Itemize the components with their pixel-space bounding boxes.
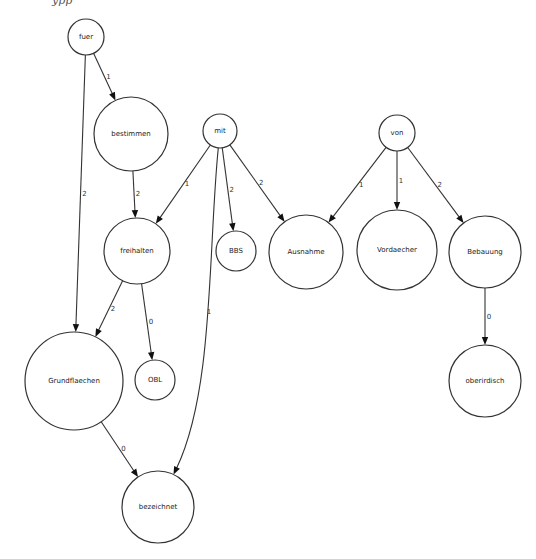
arrow-head-icon [482,337,488,345]
arrow-head-icon [174,466,180,475]
edge-label: 1 [207,308,211,316]
node-fuer[interactable]: fuer [68,19,104,55]
node-mit[interactable]: mit [203,114,237,148]
edge-label: 1 [185,180,189,188]
arrow-head-icon [109,92,115,101]
node-bestimmen[interactable]: bestimmen [94,97,168,171]
node-vordaecher[interactable]: Vordaecher [357,210,437,290]
node-label: OBL [148,376,162,384]
node-label: Grundflaechen [48,377,100,385]
arrow-head-icon [456,215,463,223]
edge-label: 0 [487,313,491,321]
edge-fuer-to-bestimmen: 1 [94,53,116,100]
edge-label: 1 [359,181,363,189]
edge-label: 0 [121,445,125,453]
node-label: fuer [79,33,93,41]
edge-fuer-to-grundflaechen: 2 [73,55,87,332]
node-von[interactable]: von [379,115,415,151]
edge-von-to-ausnahme: 1 [328,147,386,222]
nodes-layer: fuerbestimmenmitvonfreihaltenBBSAusnahme… [25,19,521,543]
arrow-head-icon [95,328,101,337]
node-label: bestimmen [111,130,150,138]
edge-label: 2 [82,190,86,198]
edge-grundflaechen-to-bezeichnet: 0 [101,422,138,477]
node-bebauung[interactable]: Bebauung [449,216,521,288]
node-label: bezeichnet [139,503,178,511]
edge-label: 1 [106,73,110,81]
arrow-head-icon [277,213,284,221]
arrow-head-icon [328,214,335,222]
edge-label: 2 [230,186,234,194]
edge-line [101,422,134,471]
node-freihalten[interactable]: freihalten [104,218,170,284]
edge-von-to-vordaecher: 1 [394,151,403,210]
node-label: Vordaecher [377,246,417,254]
arrow-head-icon [394,202,400,210]
node-obl[interactable]: OBL [135,360,175,400]
edge-line [230,145,281,216]
arrow-head-icon [148,352,154,360]
edge-line [408,147,460,217]
node-oberirdisch[interactable]: oberirdisch [449,345,521,417]
edge-label: 2 [259,179,263,187]
node-label: BBS [229,247,243,255]
node-label: mit [214,127,226,135]
dependency-graph: 12212211122000 fuerbestimmenmitvonfreiha… [0,0,536,559]
arrow-head-icon [73,324,79,332]
edge-mit-to-bezeichnet: 1 [174,148,219,475]
node-bbs[interactable]: BBS [216,231,256,271]
node-label: Bebauung [467,248,503,256]
node-label: oberirdisch [466,377,505,385]
node-bezeichnet[interactable]: bezeichnet [122,471,194,543]
edge-label: 0 [149,318,153,326]
edge-line [133,171,135,211]
edge-label: 2 [437,181,441,189]
arrow-head-icon [132,210,138,218]
node-label: von [391,129,404,137]
edge-bebauung-to-oberirdisch: 0 [482,288,491,345]
arrow-head-icon [131,469,138,477]
edge-freihalten-to-grundflaechen: 2 [95,281,122,337]
edge-mit-to-bbs: 2 [222,148,235,231]
edge-bestimmen-to-freihalten: 2 [132,171,141,218]
node-grundflaechen[interactable]: Grundflaechen [25,332,123,430]
edge-freihalten-to-obl: 0 [142,284,155,361]
edge-label: 2 [111,305,115,313]
node-label: Ausnahme [287,248,324,256]
edge-label: 2 [136,190,140,198]
edge-mit-to-freihalten: 1 [156,145,211,224]
edge-mit-to-ausnahme: 2 [230,145,285,222]
edge-von-to-bebauung: 2 [408,147,464,223]
edge-label: 1 [399,177,403,185]
node-ausnahme[interactable]: Ausnahme [269,215,343,289]
arrow-head-icon [156,215,163,223]
arrow-head-icon [229,223,235,231]
node-label: freihalten [120,247,154,255]
edge-line [177,148,219,468]
